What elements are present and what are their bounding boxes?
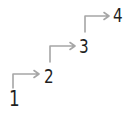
- step-label-4: 4: [113, 6, 123, 25]
- step-label-1: 1: [9, 89, 20, 110]
- arrow-3-to-4: [85, 13, 109, 33]
- arrow-2-to-3: [50, 43, 75, 63]
- step-label-2: 2: [44, 67, 54, 86]
- arrow-1-to-2: [13, 71, 39, 89]
- step-label-3: 3: [79, 37, 89, 56]
